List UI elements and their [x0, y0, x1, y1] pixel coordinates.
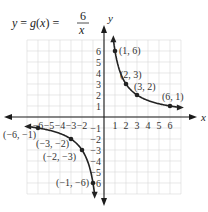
x-tick-label: −2: [77, 120, 88, 131]
point-label: (−1, −6): [56, 177, 89, 189]
y-tick-label: −2: [90, 134, 101, 145]
y-tick-label: 2: [96, 90, 101, 101]
axes: xy: [4, 12, 206, 206]
y-tick-label: 1: [96, 101, 101, 112]
point-label: (1, 6): [119, 45, 141, 57]
point-label: (6, 1): [162, 91, 184, 103]
x-tick-label: 3: [135, 120, 140, 131]
data-point: [113, 49, 118, 54]
title-denominator: x: [78, 23, 85, 37]
data-point: [168, 104, 173, 109]
curve-arrow-right-icon: [177, 104, 184, 110]
x-tick-label: 4: [146, 120, 151, 131]
hyperbola-chart: y = g(x) = 6 x xy −6−5−4−3−2123456−6−5−4…: [0, 0, 208, 212]
point-label: (3, 2): [134, 81, 156, 93]
x-tick-label: 1: [113, 120, 118, 131]
point-label: (2, 3): [120, 69, 142, 81]
point-label: (−2, −3): [43, 151, 76, 163]
data-point: [135, 93, 140, 98]
y-tick-label: 4: [96, 68, 101, 79]
title-numerator: 6: [80, 9, 86, 23]
x-axis-arrow-left-icon: [4, 114, 12, 120]
x-tick-label: −4: [55, 120, 66, 131]
title-lhs: y = g(x) =: [11, 16, 59, 30]
y-axis-arrow-up-icon: [101, 25, 107, 33]
y-tick-label: 3: [96, 79, 101, 90]
data-point: [80, 148, 85, 153]
curve-arrow-down-icon: [92, 192, 98, 199]
x-tick-label: 2: [124, 120, 129, 131]
x-tick-label: −3: [66, 120, 77, 131]
point-label: (−6, −1): [3, 129, 36, 141]
y-tick-label: −4: [90, 156, 101, 167]
y-axis-arrow-down-icon: [101, 198, 107, 206]
x-axis-label: x: [200, 111, 206, 123]
y-tick-label: −1: [90, 123, 101, 134]
data-point: [124, 82, 129, 87]
data-point: [91, 181, 96, 186]
data-point: [69, 137, 74, 142]
y-tick-label: −3: [90, 145, 101, 156]
x-axis-arrow-right-icon: [189, 114, 197, 120]
x-tick-label: 6: [168, 120, 173, 131]
y-tick-label: 5: [96, 57, 101, 68]
curve-arrow-up-icon: [110, 35, 116, 42]
chart-title: y = g(x) = 6 x: [11, 9, 89, 37]
x-tick-label: 5: [157, 120, 162, 131]
y-axis-label: y: [107, 12, 113, 24]
y-tick-label: 6: [96, 46, 101, 57]
data-point: [36, 126, 41, 131]
point-label: (−3, −2): [36, 138, 69, 150]
